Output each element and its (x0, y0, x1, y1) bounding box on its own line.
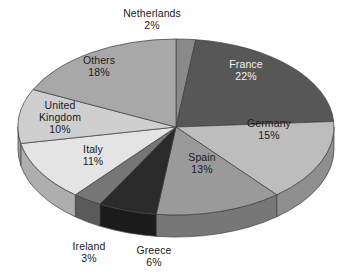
slice-label-ireland: Ireland 3% (54, 241, 124, 265)
slice-label-ireland-name: Ireland (54, 241, 124, 253)
slice-label-spain-value: 13% (167, 164, 237, 176)
slice-label-ireland-value: 3% (54, 253, 124, 265)
slice-label-united-kingdom-value: 10% (21, 124, 99, 136)
slice-label-united-kingdom-name-line1: United (21, 100, 99, 112)
slice-label-germany-name: Germany (229, 118, 309, 130)
slice-label-france-value: 22% (206, 71, 286, 83)
slice-label-spain: Spain 13% (167, 152, 237, 176)
slice-label-italy: Italy 11% (62, 144, 124, 168)
slice-label-spain-name: Spain (167, 152, 237, 164)
slice-label-france-name: France (206, 59, 286, 71)
slice-label-france: France 22% (206, 59, 286, 83)
slice-label-germany: Germany 15% (229, 118, 309, 142)
slice-label-greece: Greece 6% (119, 245, 189, 269)
slice-label-italy-value: 11% (62, 156, 124, 168)
slice-label-united-kingdom: United Kingdom 10% (21, 100, 99, 135)
slice-label-united-kingdom-name-line2: Kingdom (21, 112, 99, 124)
slice-label-others: Others 18% (64, 55, 134, 79)
slice-label-netherlands: Netherlands 2% (97, 8, 207, 32)
slice-label-netherlands-value: 2% (97, 20, 207, 32)
pie-chart: Netherlands 2% France 22% Germany 15% Sp… (0, 0, 352, 279)
slice-label-others-name: Others (64, 55, 134, 67)
slice-label-greece-value: 6% (119, 257, 189, 269)
slice-label-germany-value: 15% (229, 130, 309, 142)
slice-label-italy-name: Italy (62, 144, 124, 156)
pie-slice-france (176, 40, 334, 127)
slice-label-greece-name: Greece (119, 245, 189, 257)
slice-label-others-value: 18% (64, 67, 134, 79)
slice-label-netherlands-name: Netherlands (97, 8, 207, 20)
